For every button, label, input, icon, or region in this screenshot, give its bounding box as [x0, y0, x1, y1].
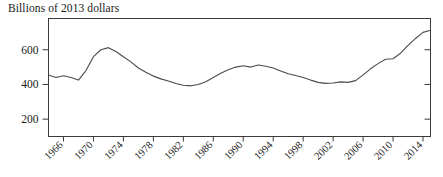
- x-tick-label: 1990: [222, 139, 245, 162]
- x-tick-label: 1986: [192, 139, 215, 162]
- chart-container: Billions of 2013 dollars 600400200 19661…: [0, 0, 443, 177]
- y-tick-label: 600: [21, 44, 39, 56]
- x-tick-label: 1994: [252, 139, 275, 162]
- x-tick-label: 2014: [402, 139, 425, 162]
- data-series-group: [49, 30, 431, 86]
- x-tick-label: 1998: [282, 139, 305, 162]
- y-tick-label: 400: [21, 78, 39, 90]
- y-tick-label: 200: [21, 113, 39, 125]
- x-tick-label: 1982: [162, 139, 185, 162]
- x-tick-label: 2010: [372, 139, 395, 162]
- data-line-series-0: [49, 30, 431, 86]
- x-tick-label: 1974: [102, 139, 125, 162]
- y-axis-ticks: [43, 50, 431, 119]
- x-tick-label: 2002: [312, 139, 335, 162]
- plot-frame: [49, 19, 431, 137]
- x-tick-label: 1966: [42, 139, 65, 162]
- x-tick-label: 1978: [132, 139, 155, 162]
- x-tick-label: 1970: [72, 139, 95, 162]
- x-tick-label: 2006: [342, 139, 365, 162]
- x-axis-tick-labels: 1966197019741978198219861990199419982002…: [42, 139, 425, 162]
- y-axis-tick-labels: 600400200: [21, 44, 39, 125]
- line-chart-plot: 600400200 196619701974197819821986199019…: [0, 0, 443, 177]
